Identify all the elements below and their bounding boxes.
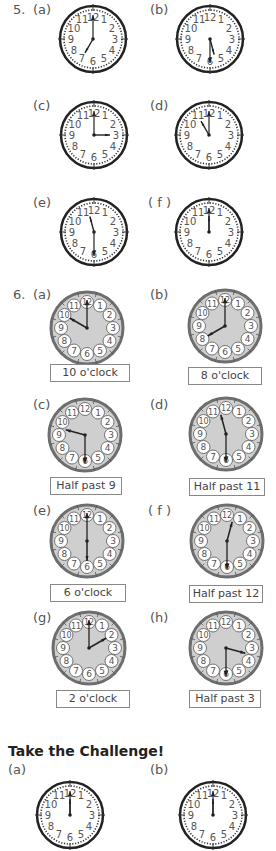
- svg-text:8: 8: [48, 821, 54, 832]
- svg-text:2: 2: [225, 216, 231, 227]
- svg-text:12: 12: [221, 404, 231, 413]
- svg-text:4: 4: [246, 442, 252, 452]
- svg-text:11: 11: [69, 302, 79, 311]
- svg-text:1: 1: [217, 110, 223, 121]
- svg-text:8: 8: [201, 656, 207, 666]
- clock-face: 123456789101112: [188, 502, 266, 580]
- svg-text:2: 2: [247, 523, 253, 533]
- svg-text:11: 11: [208, 622, 218, 631]
- svg-text:10: 10: [57, 418, 67, 427]
- svg-text:4: 4: [226, 45, 232, 56]
- item-label: (b): [150, 2, 168, 17]
- svg-text:1: 1: [221, 790, 227, 801]
- svg-text:9: 9: [184, 130, 190, 141]
- clock-face: 123456789101112: [48, 502, 126, 580]
- clock-face: 123456789101112: [48, 289, 126, 367]
- svg-text:4: 4: [86, 821, 92, 832]
- svg-text:8: 8: [71, 45, 77, 56]
- clock-face: 123456789101112: [58, 99, 130, 171]
- svg-text:6: 6: [84, 562, 90, 572]
- answer-box: 6 o'clock: [50, 584, 126, 602]
- clock-face: 123456789101112: [34, 779, 106, 851]
- svg-text:1: 1: [217, 207, 223, 218]
- svg-text:12: 12: [222, 511, 232, 520]
- svg-text:11: 11: [209, 515, 219, 524]
- svg-text:7: 7: [71, 559, 77, 569]
- svg-text:10: 10: [59, 524, 69, 533]
- svg-text:12: 12: [204, 12, 217, 23]
- answer-box: 8 o'clock: [188, 367, 262, 385]
- svg-text:9: 9: [69, 130, 75, 141]
- svg-text:1: 1: [97, 514, 103, 524]
- svg-text:5: 5: [95, 453, 101, 463]
- item-label: (d): [150, 98, 168, 113]
- svg-text:1: 1: [95, 408, 101, 418]
- svg-text:2: 2: [110, 119, 116, 130]
- answer-box: Half past 12: [189, 585, 263, 603]
- item-label: (g): [33, 610, 51, 625]
- svg-text:9: 9: [60, 643, 66, 653]
- clock-face: 123456789101112: [50, 609, 128, 687]
- svg-text:4: 4: [245, 334, 251, 344]
- svg-text:5: 5: [102, 246, 108, 257]
- svg-text:7: 7: [210, 452, 216, 462]
- svg-text:7: 7: [210, 666, 216, 676]
- svg-text:8: 8: [191, 821, 197, 832]
- answer-box: 2 o'clock: [56, 690, 130, 708]
- svg-text:1: 1: [102, 110, 108, 121]
- svg-text:3: 3: [232, 810, 238, 821]
- svg-text:9: 9: [69, 227, 75, 238]
- svg-text:11: 11: [71, 622, 81, 631]
- svg-text:6: 6: [91, 152, 97, 163]
- svg-text:7: 7: [79, 53, 85, 64]
- svg-text:3: 3: [249, 429, 255, 439]
- svg-text:2: 2: [109, 23, 115, 34]
- svg-text:8: 8: [72, 141, 78, 152]
- svg-text:5: 5: [78, 829, 84, 840]
- svg-text:8: 8: [60, 443, 66, 453]
- svg-text:4: 4: [107, 549, 113, 559]
- svg-text:9: 9: [185, 34, 191, 45]
- svg-text:10: 10: [197, 309, 207, 318]
- svg-text:12: 12: [88, 205, 101, 216]
- svg-text:1: 1: [218, 14, 224, 25]
- svg-text:5: 5: [235, 344, 241, 354]
- svg-text:2: 2: [107, 523, 113, 533]
- svg-text:6: 6: [84, 349, 90, 359]
- svg-text:8: 8: [72, 238, 78, 249]
- svg-text:6: 6: [86, 669, 92, 679]
- svg-text:9: 9: [198, 536, 204, 546]
- svg-text:6: 6: [222, 347, 228, 357]
- clock-face: 123456789101112: [57, 3, 129, 75]
- svg-text:7: 7: [196, 53, 202, 64]
- clock-face: 123456789101112: [186, 287, 264, 365]
- svg-text:4: 4: [229, 821, 235, 832]
- svg-text:7: 7: [209, 344, 215, 354]
- svg-text:5: 5: [217, 246, 223, 257]
- svg-text:9: 9: [58, 536, 64, 546]
- svg-text:6: 6: [210, 832, 216, 843]
- answer-box: Half past 11: [189, 478, 265, 496]
- svg-text:10: 10: [199, 524, 209, 533]
- svg-text:9: 9: [58, 323, 64, 333]
- svg-text:5: 5: [221, 829, 227, 840]
- svg-text:12: 12: [80, 405, 90, 414]
- item-label: (c): [33, 98, 50, 113]
- svg-text:3: 3: [250, 536, 256, 546]
- svg-text:2: 2: [225, 119, 231, 130]
- svg-text:7: 7: [195, 149, 201, 160]
- svg-text:5: 5: [101, 53, 107, 64]
- svg-text:8: 8: [201, 442, 207, 452]
- svg-text:4: 4: [110, 141, 116, 152]
- svg-text:5: 5: [102, 149, 108, 160]
- svg-text:8: 8: [200, 334, 206, 344]
- svg-text:2: 2: [86, 799, 92, 810]
- item-label: (e): [33, 195, 51, 210]
- svg-text:5: 5: [218, 53, 224, 64]
- svg-text:3: 3: [113, 130, 119, 141]
- svg-text:1: 1: [102, 207, 108, 218]
- svg-text:9: 9: [197, 643, 203, 653]
- svg-text:5: 5: [97, 346, 103, 356]
- svg-text:3: 3: [248, 321, 254, 331]
- svg-text:1: 1: [97, 301, 103, 311]
